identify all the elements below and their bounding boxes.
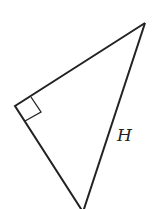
hypotenuse-label: H	[116, 125, 133, 145]
right-angle-marker	[25, 97, 41, 121]
triangle-diagram: H	[0, 0, 164, 209]
hypotenuse-line	[83, 23, 145, 209]
